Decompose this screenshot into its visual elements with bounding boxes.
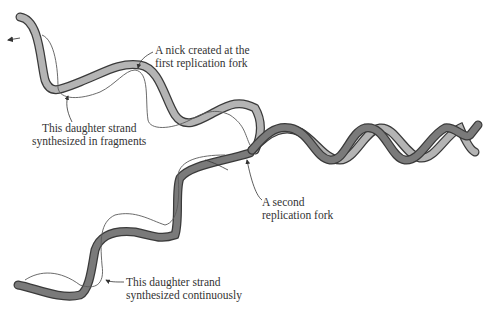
label-second-fork-line1: A second — [262, 196, 333, 209]
label-fragments-strand: This daughter strand synthesized in frag… — [32, 122, 146, 148]
label-continuous-line1: This daughter strand — [126, 276, 242, 289]
label-second-fork: A second replication fork — [262, 196, 333, 222]
label-nick-line2: first replication fork — [155, 57, 250, 70]
parental-double-helix — [252, 125, 478, 160]
label-continuous-strand: This daughter strand synthesized continu… — [126, 276, 242, 302]
label-fragments-line2: synthesized in fragments — [32, 135, 146, 148]
label-nick-first-fork: A nick created at the first replication … — [155, 44, 250, 70]
label-fragments-line1: This daughter strand — [32, 122, 146, 135]
lower-parental-strand — [18, 153, 250, 296]
label-continuous-line2: synthesized continuously — [126, 289, 242, 302]
label-nick-line1: A nick created at the — [155, 44, 250, 57]
label-second-fork-line2: replication fork — [262, 209, 333, 222]
lower-daughter-strand-continuous — [25, 155, 225, 287]
